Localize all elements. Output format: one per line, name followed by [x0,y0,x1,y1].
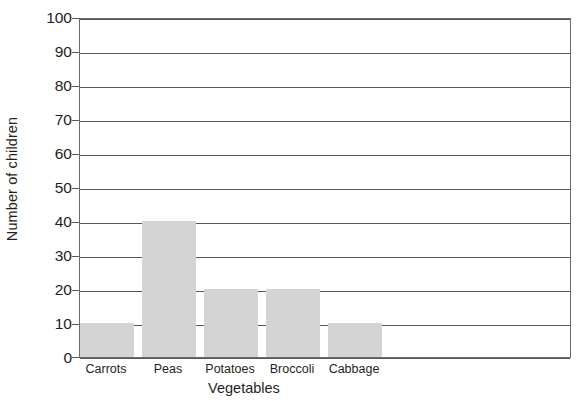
y-tick-label: 90 [26,44,72,60]
y-tick-label: 70 [26,112,72,128]
x-axis-title: Vegetables [79,380,409,396]
bar [80,323,134,357]
y-tick-mark [72,154,79,155]
y-tick-mark [72,222,79,223]
y-tick-label: 50 [26,180,72,196]
y-tick-mark [72,52,79,53]
bar [328,323,382,357]
y-tick-label: 10 [26,316,72,332]
y-axis-title: Number of children [2,0,22,358]
x-tick-label: Peas [134,360,202,378]
gridline [80,358,570,359]
y-tick-label: 30 [26,248,72,264]
y-tick-label: 80 [26,78,72,94]
y-tick-mark [72,256,79,257]
x-tick-label: Cabbage [320,360,388,378]
y-tick-label: 0 [26,350,72,366]
y-tick-label: 40 [26,214,72,230]
bar [204,289,258,357]
y-tick-mark [72,188,79,189]
y-tick-mark [72,86,79,87]
x-tick-label: Broccoli [258,360,326,378]
y-axis-title-text: Number of children [4,117,20,241]
x-axis-ticks: CarrotsPeasPotatoesBroccoliCabbage [79,360,571,380]
y-tick-label: 100 [26,10,72,26]
bar [266,289,320,357]
y-tick-mark [72,357,79,358]
bar [142,221,196,357]
y-tick-label: 60 [26,146,72,162]
x-tick-label: Potatoes [196,360,264,378]
chart-title [0,0,576,1]
y-tick-mark [72,324,79,325]
x-tick-label: Carrots [72,360,140,378]
plot-area [79,18,571,358]
y-tick-mark [72,120,79,121]
y-axis-ticks: 1009080706050403020100 [20,18,72,358]
bars-layer [80,19,570,357]
y-tick-mark [72,18,79,19]
y-tick-label: 20 [26,282,72,298]
y-tick-mark [72,290,79,291]
